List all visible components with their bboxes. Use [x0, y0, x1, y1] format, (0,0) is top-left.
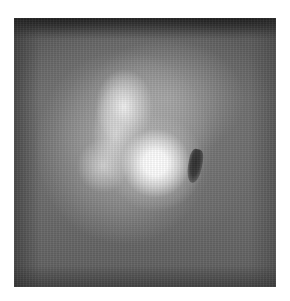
noise-texture: [14, 18, 276, 287]
scan-image: [14, 18, 276, 287]
